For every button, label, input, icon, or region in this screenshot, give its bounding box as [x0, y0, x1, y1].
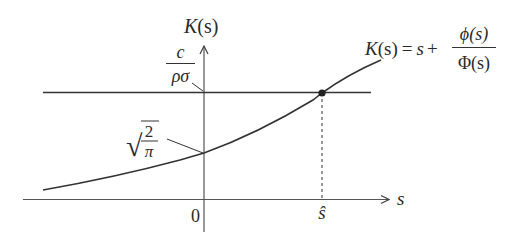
- origin-label: 0: [191, 206, 200, 226]
- svg-text:K(s)=s+: K(s)=s+: [364, 38, 438, 60]
- x-axis-label: s: [397, 188, 404, 209]
- intercept-denominator: π: [145, 142, 154, 161]
- intercept-leader-line: [167, 139, 203, 153]
- k-formula: K(s)=s+ ϕ(s) Φ(s): [364, 24, 496, 74]
- threshold-label: c ρσ: [166, 42, 195, 86]
- intercept-label: √ 2 π: [126, 121, 159, 162]
- intersection-point: [318, 89, 325, 96]
- radical-sign: √: [126, 129, 143, 162]
- formula-denominator: Φ(s): [458, 53, 490, 74]
- k-function-diagram: K(s) c ρσ √ 2 π 0 ŝ s K(s)=s+ ϕ(s) Φ(s): [0, 0, 513, 252]
- k-curve: [43, 60, 381, 190]
- s-hat-label: ŝ: [318, 202, 326, 223]
- threshold-numerator: c: [177, 42, 185, 62]
- intercept-numerator: 2: [145, 122, 154, 141]
- threshold-leader-line: [192, 83, 203, 91]
- threshold-denominator: ρσ: [171, 66, 191, 86]
- y-axis-label: K(s): [183, 15, 218, 38]
- formula-numerator: ϕ(s): [460, 24, 488, 45]
